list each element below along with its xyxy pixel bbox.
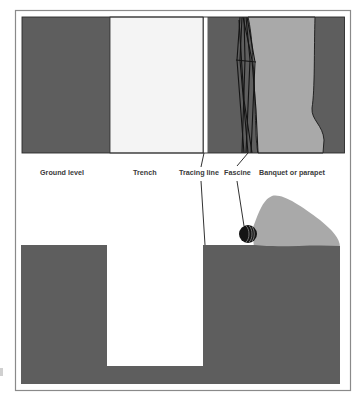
label-trench: Trench	[133, 168, 157, 178]
section-fascine	[239, 225, 257, 243]
scan-artifact	[0, 368, 3, 376]
plan-view	[22, 17, 345, 153]
cross-section	[21, 196, 340, 384]
plan-ground-left	[22, 17, 110, 153]
tracing-leader-bottom	[201, 181, 205, 245]
section-parapet	[252, 196, 340, 247]
label-banquet-parapet: Banquet or parapet	[259, 168, 325, 178]
label-tracing-line: Tracing line	[179, 168, 219, 178]
trench-diagram	[0, 0, 358, 393]
plan-trench	[110, 17, 203, 153]
section-ground	[21, 245, 340, 384]
fascine-leader-top	[237, 153, 248, 166]
fascine-leader-bottom	[237, 181, 244, 226]
label-ground-level: Ground level	[40, 168, 84, 178]
plan-parapet	[248, 17, 324, 153]
label-fascine: Fascine	[224, 168, 251, 178]
tracing-leader-top	[201, 153, 204, 167]
